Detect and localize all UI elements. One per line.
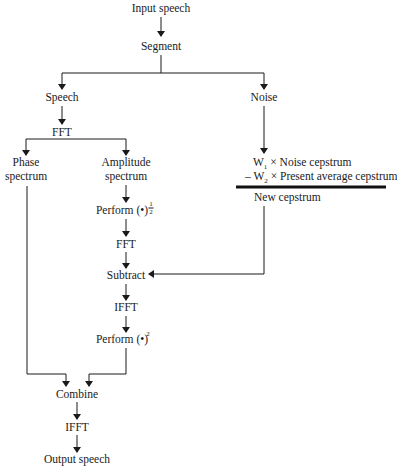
node-ifft-2: IFFT	[65, 421, 89, 433]
node-phase-line1: Phase	[13, 156, 40, 168]
node-segment: Segment	[141, 40, 182, 53]
node-perform-square: Perform (•)	[96, 333, 148, 346]
arrow-phase-to-combine	[27, 186, 66, 386]
node-amplitude-line2: spectrum	[105, 170, 147, 183]
node-fft-2: FFT	[116, 238, 136, 250]
exponent-square: 2	[146, 330, 150, 338]
node-perform-sqrt: Perform (•)	[96, 204, 148, 217]
arrow-perform-square-to-combine	[89, 348, 126, 386]
node-combine: Combine	[56, 388, 98, 400]
flowchart: Input speech Segment Speech Noise FFT Ph…	[0, 0, 397, 469]
cepstrum-formula-line2: – W2 × Present average cepstrum	[244, 170, 397, 185]
node-fft-1: FFT	[52, 126, 72, 138]
cepstrum-formula-line1: W1 × Noise cepstrum	[253, 156, 352, 171]
node-amplitude-line1: Amplitude	[101, 156, 150, 169]
node-ifft-1: IFFT	[114, 301, 138, 313]
exponent-numerator: 1	[149, 200, 153, 208]
node-noise: Noise	[251, 91, 278, 103]
node-phase-line2: spectrum	[5, 170, 47, 183]
node-subtract: Subtract	[107, 269, 146, 281]
node-new-cepstrum: New cepstrum	[254, 191, 321, 204]
node-output-speech: Output speech	[44, 453, 110, 466]
arrow-new-cepstrum-to-subtract	[149, 206, 264, 274]
node-speech: Speech	[45, 91, 78, 104]
node-input-speech: Input speech	[132, 2, 191, 15]
exponent-denominator: 2	[149, 208, 153, 216]
